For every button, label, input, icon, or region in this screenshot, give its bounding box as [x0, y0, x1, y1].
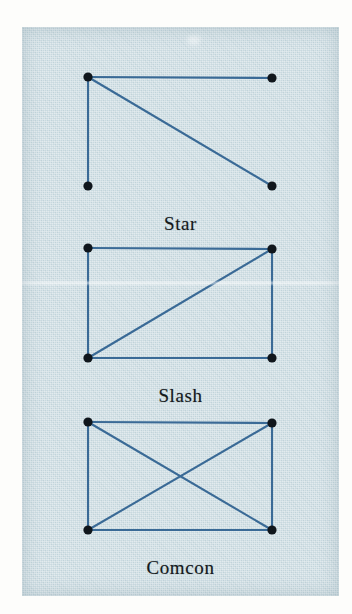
page: Star Slash Comcon [0, 0, 352, 614]
node-slash-top-right [267, 244, 276, 253]
edge-slash-bottom-left-top-right [88, 249, 272, 358]
node-slash-bottom-left [83, 353, 92, 362]
node-star-bottom-right [267, 181, 276, 190]
graph-slash [83, 243, 276, 362]
node-comcon-top-left [83, 417, 92, 426]
node-star-top-right [267, 73, 276, 82]
caption-comcon: Comcon [22, 557, 339, 579]
edge-slash-top-left-top-right [88, 248, 272, 249]
node-comcon-top-right [267, 418, 276, 427]
node-star-top-left [83, 72, 92, 81]
node-comcon-bottom-right [267, 525, 276, 534]
edge-comcon-top-left-top-right [88, 422, 272, 423]
caption-star: Star [22, 213, 339, 235]
edge-star-top-left-bottom-right [88, 77, 272, 186]
node-slash-top-left [83, 243, 92, 252]
node-comcon-bottom-left [83, 525, 92, 534]
graph-comcon [83, 417, 276, 534]
scanned-paper: Star Slash Comcon [22, 27, 339, 596]
network-topology-diagrams [22, 27, 339, 596]
node-slash-bottom-right [267, 353, 276, 362]
edge-star-top-left-top-right [88, 77, 272, 78]
caption-slash: Slash [22, 385, 339, 407]
graph-star [83, 72, 276, 190]
node-star-bottom-left [83, 181, 92, 190]
